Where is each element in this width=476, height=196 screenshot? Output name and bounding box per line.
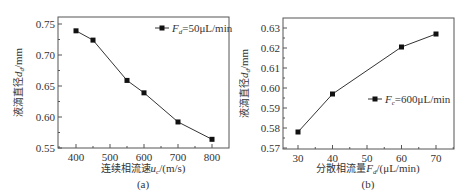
x-axis: 400500600700800 [59, 144, 221, 163]
y-tick-label: 0.58 [261, 122, 281, 134]
y-axis-title: 液滴直径dd/mm [238, 48, 252, 118]
y-tick-label: 0.75 [36, 18, 56, 30]
x-tick-label: 800 [204, 151, 221, 163]
chart-panel-a: 4005006007008000.550.600.650.700.75Fd=50… [12, 17, 233, 191]
chart-panel-b: 30405060700.570.580.590.600.610.620.63Fc… [238, 18, 454, 191]
data-point-marker [74, 28, 79, 33]
data-point-marker [434, 32, 439, 37]
data-point-marker [330, 92, 335, 97]
y-tick-label: 0.63 [261, 22, 281, 34]
data-point-marker [91, 38, 96, 43]
legend: Fc=600μL/min [368, 93, 451, 107]
data-line [76, 31, 212, 140]
y-tick-label: 0.55 [36, 142, 56, 154]
figure: 4005006007008000.550.600.650.700.75Fd=50… [0, 0, 476, 196]
legend-label: Fd=50μL/min [171, 22, 233, 36]
plot-frame [283, 18, 454, 149]
y-tick-label: 0.61 [261, 62, 280, 74]
data-line [298, 34, 436, 132]
y-axis-title: 液滴直径dd/mm [12, 47, 26, 117]
y-tick-label: 0.57 [261, 142, 281, 154]
data-point-marker [399, 45, 404, 50]
data-point-marker [296, 130, 301, 135]
x-tick-label: 400 [68, 151, 85, 163]
y-tick-label: 0.60 [261, 82, 281, 94]
x-axis-title: 分散相流量Fd/(μL/min) [316, 162, 420, 176]
panel-label: (b) [362, 178, 375, 191]
legend: Fd=50μL/min [155, 22, 233, 36]
y-tick-label: 0.70 [36, 49, 56, 61]
x-axis-title: 连续相流速uc/(m/s) [101, 162, 186, 176]
x-tick-label: 70 [431, 152, 443, 164]
y-tick-label: 0.62 [261, 42, 280, 54]
legend-label: Fc=600μL/min [384, 93, 451, 107]
y-tick-label: 0.59 [261, 102, 281, 114]
plot-frame [58, 17, 229, 148]
x-tick-label: 30 [293, 152, 305, 164]
y-tick-label: 0.65 [36, 80, 56, 92]
data-point-marker [210, 137, 215, 142]
legend-marker-icon [373, 97, 378, 102]
legend-marker-icon [160, 26, 165, 31]
panel-label: (a) [137, 178, 150, 191]
data-point-marker [125, 78, 130, 83]
x-tick-label: 500 [102, 151, 119, 163]
y-tick-label: 0.60 [36, 111, 56, 123]
data-point-marker [142, 90, 147, 95]
data-point-marker [176, 119, 181, 124]
